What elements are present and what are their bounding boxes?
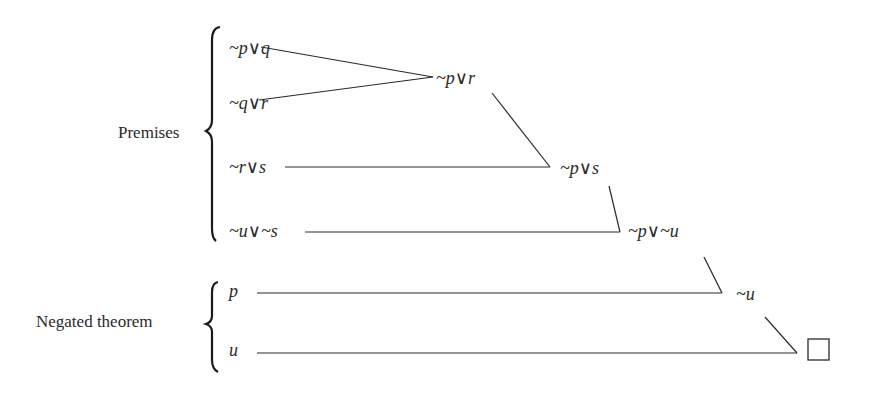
premises-label: Premises bbox=[118, 123, 179, 142]
clause-not-q-or-r: ~q∨r bbox=[229, 93, 269, 113]
resolvent-not-p-or-r: ~p∨r bbox=[436, 68, 476, 88]
edge-r2-r3 bbox=[609, 186, 620, 232]
resolvent-not-u: ~u bbox=[736, 284, 755, 304]
clause-u: u bbox=[229, 340, 238, 360]
edge-r3-r4 bbox=[704, 257, 722, 293]
resolution-diagram: Premises Negated theorem ~p∨q ~q∨r ~r∨s … bbox=[0, 0, 873, 393]
edge-r4-r5 bbox=[765, 317, 797, 353]
edge-c2-r1 bbox=[259, 77, 433, 100]
negated-theorem-brace bbox=[206, 282, 218, 372]
clause-not-u-or-not-s: ~u∨~s bbox=[229, 221, 278, 241]
resolvent-not-p-or-not-u: ~p∨~u bbox=[628, 221, 679, 241]
clause-not-r-or-s: ~r∨s bbox=[229, 157, 266, 177]
edge-c1-r1 bbox=[261, 47, 433, 77]
negated-theorem-label: Negated theorem bbox=[36, 312, 153, 331]
empty-clause-box bbox=[808, 339, 829, 360]
edge-r1-r2 bbox=[492, 93, 550, 167]
resolvent-not-p-or-s: ~p∨s bbox=[560, 158, 599, 178]
premises-brace bbox=[206, 27, 220, 241]
clause-p: p bbox=[227, 281, 238, 301]
